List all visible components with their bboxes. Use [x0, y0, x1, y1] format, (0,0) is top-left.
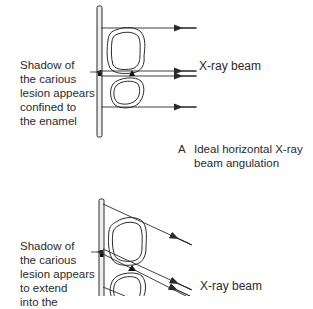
panel-a-shadow-label: Shadow of the carious lesion appears con…: [20, 58, 95, 128]
panel-a-beam-label: X-ray beam: [199, 59, 261, 73]
panel-a-caption: Ideal horizontal X-ray beam angulation: [194, 142, 303, 170]
beam-arrow-icons: [177, 239, 192, 297]
lower-tooth: [111, 78, 144, 108]
panel-a-caption-letter: A: [178, 142, 186, 156]
panel-b-diagram: [91, 199, 192, 296]
carious-lesion: [128, 265, 136, 271]
lesion-shadow-on-film: [100, 250, 104, 257]
upper-tooth: [108, 218, 146, 266]
beam-arrow-icons: [182, 28, 196, 107]
upper-tooth: [107, 28, 145, 74]
film-strip: [99, 199, 104, 296]
lesion-shadow-on-film: [98, 71, 102, 76]
panel-a-diagram: [90, 6, 197, 137]
panel-b-shadow-label: Shadow of the carious lesion appears to …: [20, 239, 95, 309]
panel-b-beam-label: X-ray beam: [200, 279, 262, 293]
